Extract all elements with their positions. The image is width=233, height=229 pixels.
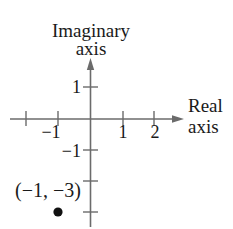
imaginary-axis [83,58,98,227]
point-label: (−1, −3) [15,179,81,202]
y-tick-label-neg1: −1 [62,141,81,161]
x-tick-label-1: 1 [119,122,128,142]
real-axis-arrow-icon [172,115,184,122]
point-dot-icon [53,207,62,216]
x-tick-label-neg1: −1 [41,122,60,142]
real-axis-title-line1: Real [188,95,223,116]
imaginary-axis-title-line2: axis [76,38,107,59]
real-axis-title-line2: axis [188,116,219,137]
y-tick-label-1: 1 [72,77,81,97]
complex-plane-diagram: Imaginary axis Real axis −1 1 2 [0,0,233,229]
plotted-point: (−1, −3) [15,179,81,217]
x-tick-label-2: 2 [151,122,160,142]
imaginary-axis-arrow-icon [87,58,94,70]
